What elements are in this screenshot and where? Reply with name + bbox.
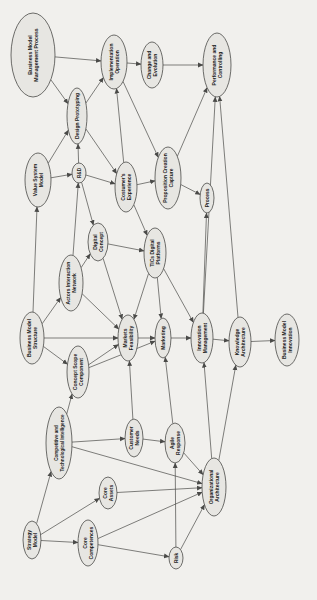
edge-cust_exp-to-impl_op	[117, 89, 124, 163]
node-label-design_proto-line1: Design Prototyping	[74, 93, 80, 139]
edge-design_proto-to-impl_op	[86, 78, 104, 104]
edge-cti-to-cust_needs	[72, 439, 125, 443]
node-label-org_arch-line2: Architecture	[214, 472, 220, 502]
node-label-digital_concept-line2: Concept	[98, 232, 104, 252]
node-label-tics-line2: Platforms	[155, 241, 161, 264]
edge-innov_mgmt-to-know_arch	[213, 339, 229, 341]
node-label-change_evo-line1: Change and	[146, 51, 152, 80]
node-label-know_arch-line1: Knowledge	[234, 328, 240, 355]
node-label-core_comp-line2: Competences	[88, 526, 94, 559]
edge-risk-to-org_arch	[181, 505, 205, 550]
edge-impl_op-to-prop_cc	[123, 81, 158, 157]
edge-org_arch-to-innov_mgmt	[204, 363, 212, 459]
node-label-digital_concept-line1: Digital	[92, 234, 98, 250]
edge-org_arch-to-know_arch	[219, 365, 236, 460]
node-digital_concept: DigitalConcept	[88, 223, 108, 261]
edge-agile-to-marketing	[165, 357, 173, 423]
edge-agile-to-org_arch	[184, 453, 203, 475]
node-change_evo: Change andEvolution	[141, 42, 163, 88]
edge-digital_concept-to-mkts_feas	[103, 258, 122, 319]
node-label-perf_ctrl-line2: Controlling	[217, 52, 223, 79]
edge-rd-to-design_proto	[78, 144, 79, 163]
edge-bmmp-to-impl_op	[55, 57, 101, 61]
node-label-ain-line1: Actors Interaction	[65, 262, 71, 305]
node-label-rd-line1: R&D	[77, 167, 82, 178]
node-org_arch: OrganizationalArchitecture	[202, 458, 226, 516]
node-label-strategy-line2: Model	[32, 532, 38, 547]
node-label-vsm-line2: Model	[38, 172, 44, 187]
edge-vsm-to-rd	[51, 174, 72, 178]
edge-prop_cc-to-perf_ctrl	[177, 88, 207, 157]
node-label-cust_needs-line2: Needs	[134, 430, 140, 445]
node-label-prop_cc-line2: Capture	[168, 168, 174, 187]
node-cti: Competitive andTechnological Intelligenc…	[46, 407, 72, 479]
node-label-core_assets-line2: Assets	[108, 485, 114, 502]
node-core_comp: CoreCompetences	[78, 520, 98, 566]
node-label-change_evo-line2: Evolution	[152, 54, 158, 77]
edge-tics-to-mkts_feas	[134, 273, 149, 319]
node-core_assets: CoreAssets	[99, 477, 117, 509]
node-bmmp: Business ModelManagement Process	[11, 13, 55, 97]
node-label-bmi-line1: Business Model	[281, 320, 287, 359]
edge-know_arch-to-bmi	[251, 341, 275, 342]
edge-core_assets-to-org_arch	[117, 488, 202, 493]
edge-bmmp-to-design_proto	[51, 80, 68, 104]
edge-know_arch-to-perf_ctrl	[220, 96, 238, 317]
node-label-tics-line1: TICs Digital	[149, 239, 155, 267]
node-label-process-line1: Process	[205, 188, 210, 207]
node-label-core_comp-line1: Core	[82, 537, 88, 549]
node-perf_ctrl: Performance andControlling	[203, 33, 231, 97]
edge-strategy-to-cti	[37, 472, 52, 524]
edge-cust_exp-to-prop_cc	[137, 181, 155, 185]
node-know_arch: KnowledgeArchitecture	[229, 317, 251, 367]
edge-bms-to-ain	[42, 298, 61, 324]
node-tics: TICs DigitalPlatforms	[144, 228, 166, 278]
node-label-vsm-line1: Value System	[32, 163, 38, 196]
node-label-know_arch-line2: Architecture	[240, 327, 246, 357]
node-innov_mgmt: InnovationManagement	[191, 313, 213, 363]
node-label-agile-line2: Response	[175, 431, 181, 455]
node-bms: Business ModelStructure	[20, 312, 44, 364]
node-process: Process	[200, 183, 214, 213]
node-label-cust_exp-line1: Costumer's	[120, 173, 126, 201]
node-label-perf_ctrl-line1: Performance and	[211, 45, 217, 86]
node-label-concept_scope-line2: Component	[78, 358, 84, 386]
nodes-layer: Business ModelManagement ProcessImplemen…	[11, 13, 299, 569]
node-label-concept_scope-line1: Concept Scope	[72, 354, 78, 391]
node-label-impl_op-line1: Implementation	[108, 44, 114, 81]
node-label-ain-line2: Network	[71, 273, 77, 293]
node-label-cti-line1: Competitive and	[54, 425, 59, 461]
node-bmi: Business ModelInnovation	[275, 314, 299, 366]
node-vsm: Value SystemModel	[25, 153, 51, 207]
node-risk: Risk	[169, 547, 183, 569]
edge-ain-to-rd	[73, 183, 78, 256]
node-label-org_arch-line1: Organizational	[208, 469, 214, 504]
node-label-prop_cc-line1: Proposition Creation	[162, 153, 168, 202]
edge-ain-to-mkts_feas	[82, 294, 119, 329]
node-label-bms-line2: Structure	[32, 327, 38, 349]
node-label-mkts_feas-line2: Feasibility	[128, 326, 134, 351]
node-label-bmmp-line2: Management Process	[33, 28, 39, 81]
node-label-impl_op-line2: Operation	[114, 50, 120, 74]
edge-tics-to-marketing	[157, 277, 161, 318]
edge-impl_op-to-change_evo	[127, 63, 141, 64]
edge-risk-to-agile	[175, 463, 176, 547]
node-ain: Actors InteractionNetwork	[59, 255, 83, 311]
node-cust_needs: CustomerNeeds	[125, 419, 143, 457]
edge-strategy-to-core_comp	[41, 541, 78, 543]
node-strategy: StrategyModel	[23, 521, 41, 559]
node-label-marketing-line1: Marketing	[160, 326, 166, 350]
edge-digital_concept-to-tics	[108, 244, 144, 251]
node-label-mkts_feas-line1: Markets	[122, 328, 128, 347]
node-prop_cc: Proposition CreationCapture	[155, 147, 181, 209]
concept-network-diagram: Business ModelManagement ProcessImplemen…	[0, 0, 317, 600]
edge-bms-to-concept_scope	[43, 346, 67, 364]
node-concept_scope: Concept ScopeComponent	[67, 346, 89, 398]
node-cust_exp: Costumer'sExperience	[115, 162, 137, 212]
node-rd: R&D	[72, 163, 86, 183]
node-label-bms-line1: Business Model	[26, 318, 32, 357]
node-design_proto: Design Prototyping	[67, 88, 87, 144]
edge-cti-to-concept_scope	[67, 394, 72, 414]
edge-design_proto-to-cust_exp	[86, 129, 117, 174]
node-label-cust_exp-line2: Experience	[126, 173, 132, 200]
